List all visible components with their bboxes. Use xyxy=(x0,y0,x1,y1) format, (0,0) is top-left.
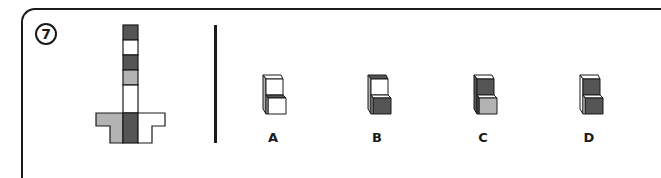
net-segment-2 xyxy=(123,40,138,55)
l-block-icon xyxy=(364,72,398,120)
net-base-left xyxy=(96,113,123,143)
net-segment-3 xyxy=(123,55,138,70)
net-segment-4 xyxy=(123,70,138,85)
l-block-icon xyxy=(259,72,293,120)
option-b-figure[interactable] xyxy=(364,72,398,120)
option-b-label[interactable]: B xyxy=(362,130,392,145)
option-c-figure[interactable] xyxy=(470,72,504,120)
net-segment-5 xyxy=(123,85,138,113)
option-a-figure[interactable] xyxy=(259,72,293,120)
option-a-label[interactable]: A xyxy=(258,130,288,145)
net-base-center xyxy=(123,113,138,143)
l-block-icon xyxy=(576,72,610,120)
l-block-icon xyxy=(470,72,504,120)
option-d-label[interactable]: D xyxy=(574,130,604,145)
net-segment-1 xyxy=(123,25,138,40)
option-d-figure[interactable] xyxy=(576,72,610,120)
net-base-right xyxy=(138,113,165,143)
divider-line xyxy=(214,25,217,143)
option-c-label[interactable]: C xyxy=(468,130,498,145)
